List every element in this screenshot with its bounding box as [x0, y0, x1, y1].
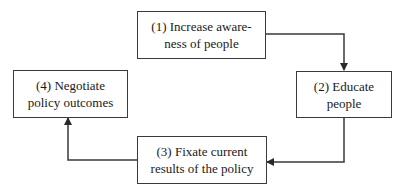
node-fixate-results: (3) Fixate current results of the policy [137, 136, 267, 184]
node-2-line-1: (2) Educate [314, 78, 374, 95]
node-4-line-1: (4) Negotiate [28, 77, 114, 94]
node-2-line-2: people [314, 95, 374, 112]
node-3-line-2: results of the policy [151, 160, 254, 177]
node-1-line-2: ness of people [151, 35, 251, 52]
edge-2-to-3 [267, 117, 344, 162]
node-3-line-1: (3) Fixate current [151, 143, 254, 160]
edge-1-to-2 [266, 34, 344, 70]
node-increase-awareness: (1) Increase aware- ness of people [137, 11, 266, 59]
edge-3-to-4 [68, 118, 137, 160]
node-negotiate-outcomes: (4) Negotiate policy outcomes [13, 70, 128, 118]
node-educate-people: (2) Educate people [296, 71, 392, 118]
node-1-line-1: (1) Increase aware- [151, 18, 251, 35]
node-4-line-2: policy outcomes [28, 94, 114, 111]
